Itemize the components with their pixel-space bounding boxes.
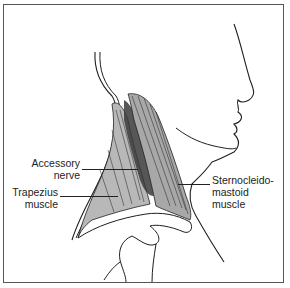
face-profile [190,24,254,262]
arm-line [104,262,120,280]
neck-anatomy-illustration [0,0,290,288]
jaw-line [176,128,236,149]
label-sternocleidomastoid-muscle: Sternocleido- mastoid muscle [212,174,288,210]
label-accessory-nerve: Accessory nerve [28,157,80,181]
label-trapezius-muscle: Trapezius muscle [8,186,58,210]
leader-sternocleidomastoid-muscle [178,184,210,185]
humerus [120,236,133,282]
leader-accessory-nerve [82,169,138,170]
leader-trapezius-muscle [60,196,118,197]
humerus-2 [152,244,156,282]
